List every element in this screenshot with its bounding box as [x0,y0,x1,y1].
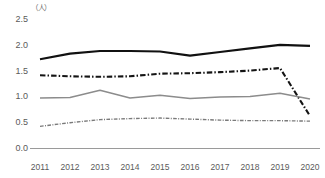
x-axis-tick-label: 2017 [211,162,230,172]
x-axis-tick-label: 2015 [151,162,170,172]
x-axis-tick-label: 2020 [301,162,320,172]
x-axis-tick-label: 2018 [241,162,260,172]
x-axis-tick-label: 2016 [181,162,200,172]
x-axis-tick-label: 2012 [61,162,80,172]
x-axis-tick-label: 2014 [121,162,140,172]
x-axis-tick-labels: 2011201220132014201520162017201820192020 [0,0,325,178]
x-axis-tick-label: 2011 [31,162,49,172]
x-axis-tick-label: 2019 [271,162,290,172]
x-axis-tick-label: 2013 [91,162,110,172]
line-chart: （人） 0.00.51.01.52.02.5 20112012201320142… [0,0,325,178]
